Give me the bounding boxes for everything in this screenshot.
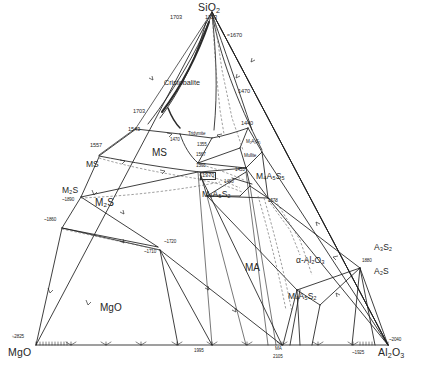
temp-1470-right: 1470 xyxy=(238,89,250,95)
temp-1440: 1440 xyxy=(241,121,253,127)
mgo-field-boundaries xyxy=(36,228,212,345)
temp-1355: 1355 xyxy=(197,143,207,148)
temp-1365: 1365 xyxy=(196,164,206,169)
temp-1453: 1453 xyxy=(235,168,245,173)
temp-1543: 1543 xyxy=(128,127,140,133)
corner-label-al2o3: Al2O3 xyxy=(378,347,404,360)
temp-1860: ~1860 xyxy=(44,218,56,223)
mgo-solid-solution-hatch xyxy=(40,342,67,345)
temp-1995: 1995 xyxy=(194,349,204,354)
phase-field-mullite: Mullite xyxy=(244,154,256,159)
phase-field-cristobalite: Cristobalite xyxy=(164,79,200,86)
temp-1720: ~1720 xyxy=(164,240,176,245)
ternary-phase-diagram: SiO2 1723 MgO ≈2825 Al2O3 ~2040 ~1925 Mg… xyxy=(0,0,424,370)
temp-1880: 1880 xyxy=(362,259,372,264)
temp-1925: ~1925 xyxy=(352,351,364,356)
temp-1557: 1557 xyxy=(90,143,102,149)
temp-1703-apex: 1703 xyxy=(170,15,182,21)
corner-label-mgo: MgO xyxy=(8,347,31,358)
phase-field-mgo: MgO xyxy=(100,303,122,313)
temp-1703-left: 1703 xyxy=(133,109,145,115)
temp-1460: 1460 xyxy=(224,180,234,185)
temp-1370-boxed: 1370 xyxy=(200,172,216,180)
bottom-compound-ma-temp: 2105 xyxy=(273,355,283,360)
corner-temp-sio2: 1723 xyxy=(205,15,217,21)
phase-field-tridymite: Tridymite xyxy=(188,132,205,137)
m2s-field-boundaries xyxy=(62,157,198,247)
bottom-compound-ma: MA xyxy=(275,347,282,352)
ms-field-boundaries xyxy=(99,128,248,172)
phase-field-alpha-alumina: α-Al₂O₃ xyxy=(296,256,325,265)
phase-field-m2a2s5: M₂A₂S₅ xyxy=(246,140,260,145)
phase-field-m2s-left: M₂S xyxy=(62,186,78,195)
temp-1670: ≈1670 xyxy=(227,33,242,39)
temp-1710: ~1710 xyxy=(144,250,156,255)
phase-field-m4a5s5: M₄A₅S₅ xyxy=(256,172,285,181)
phase-field-a3s2: A₃S₂ xyxy=(374,243,392,252)
phase-field-ms-left: MS xyxy=(86,160,99,169)
phase-field-m4a5s2-upper: M₄A₅S₂ xyxy=(202,190,231,199)
phase-field-ms: MS xyxy=(152,148,167,158)
temp-1470-ms: 1470 xyxy=(170,138,180,143)
phase-field-m2s: M₂S xyxy=(95,198,114,208)
alumina-solid-solution-hatch xyxy=(360,342,372,345)
corner-temp-al2o3: ~2040 xyxy=(389,338,401,343)
temp-1890: ~1890 xyxy=(62,198,74,203)
cristobalite-band-inner xyxy=(168,108,180,128)
corner-label-sio2: SiO2 xyxy=(198,2,220,15)
corner-temp-mgo: ≈2825 xyxy=(12,335,24,340)
temp-1578: 1578 xyxy=(268,199,278,204)
liquidus-arrow-markers xyxy=(48,58,340,312)
phase-field-m4a5s2-lower: M₄A₅S₂ xyxy=(288,292,317,301)
phase-field-a2s: A₂S xyxy=(374,267,389,276)
phase-field-ma: MA xyxy=(245,263,260,273)
temp-1567: 1567 xyxy=(196,153,206,158)
